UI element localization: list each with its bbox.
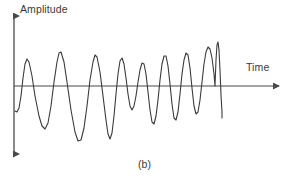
signal-curve	[15, 42, 222, 141]
x-axis-label: Time	[246, 61, 269, 73]
y-axis-label: Amplitude	[20, 3, 68, 15]
waveform-figure: Amplitude Time (b)	[0, 0, 289, 187]
figure-caption: (b)	[0, 158, 289, 170]
